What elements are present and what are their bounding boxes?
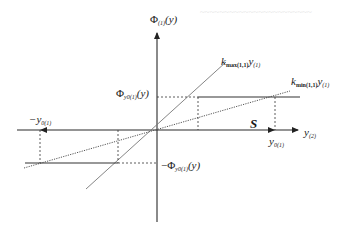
neg-phi-arg: (y) — [188, 159, 200, 171]
region-s-label: S — [250, 117, 257, 130]
horizontal-label-sub: (2) — [309, 133, 316, 139]
pos-phi-arg: (y) — [137, 87, 149, 99]
pos-phi-sub: y0(1) — [124, 94, 137, 100]
kmax-sub: max(1,1) — [226, 62, 249, 68]
diagram-canvas — [0, 0, 344, 232]
horizontal-axis-label: y(2) — [304, 127, 316, 139]
kmax-var-sub: (1) — [253, 62, 260, 68]
neg-y0-sub: 0(1) — [41, 120, 51, 126]
vertical-axis-label: Φ(1)(y) — [150, 14, 177, 26]
negative-phi-level-label: −Φy0(1)(y) — [161, 160, 200, 172]
neg-y0-prefix: −y — [29, 113, 41, 125]
phi-symbol: Φ — [150, 13, 158, 25]
neg-phi-sub: y0(1) — [175, 166, 188, 172]
pos-y0-sub: 0(1) — [274, 142, 284, 148]
vertical-label-arg: (y) — [165, 13, 177, 25]
vertical-label-sub: (1) — [158, 20, 165, 26]
kmin-var-sub: (1) — [322, 82, 329, 88]
positive-y0-label: y0(1) — [269, 136, 284, 148]
positive-phi-level-label: Φy0(1)(y) — [116, 88, 149, 100]
pos-phi-base: Φ — [116, 87, 124, 99]
kmin-label: kmin(1,1)y(1) — [291, 76, 329, 88]
negative-y0-label: −y0(1) — [29, 114, 51, 126]
neg-phi-prefix: −Φ — [161, 159, 175, 171]
kmax-line — [86, 62, 226, 189]
arrow-right-y0 — [268, 127, 275, 133]
kmax-label: kmax(1,1)y(1) — [221, 56, 260, 68]
arrow-left-neg-y0 — [40, 127, 47, 133]
kmin-sub: min(1,1) — [296, 82, 318, 88]
